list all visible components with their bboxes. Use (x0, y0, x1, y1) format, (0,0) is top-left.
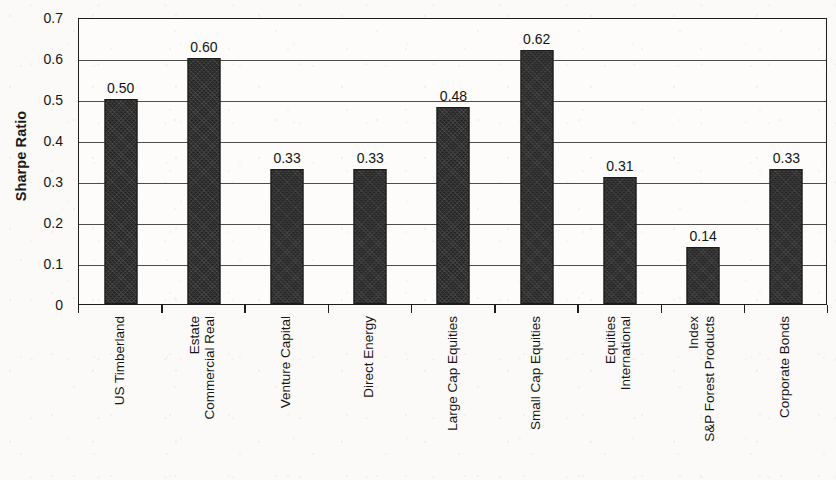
x-category-label: S&P Forest ProductsIndex (687, 316, 718, 480)
x-tick (744, 305, 745, 313)
x-category-label: Large Cap Equities (445, 316, 461, 480)
x-category-label-line: Direct Energy (362, 316, 378, 398)
bar-value-label: 0.48 (440, 89, 467, 103)
sharpe-ratio-bar-chart: Sharpe Ratio 00.10.20.30.40.50.60.7 0.50… (0, 0, 836, 480)
bar-value-label: 0.62 (523, 32, 550, 46)
bar-value-label: 0.31 (606, 159, 633, 173)
x-category-label-line: Venture Capital (278, 316, 294, 408)
x-category-label-line: Corporate Bonds (778, 316, 794, 418)
bar-group[interactable]: 0.33 (745, 19, 828, 304)
x-axis-category-labels: US TimberlandCommercial RealEstateVentur… (78, 316, 827, 480)
bar-group[interactable]: 0.62 (495, 19, 578, 304)
y-tick-label: 0.7 (0, 11, 72, 25)
x-category-label-line: Equities (603, 316, 619, 364)
bar-value-label: 0.33 (357, 151, 384, 165)
x-category-label: US Timberland (112, 316, 128, 480)
x-category-label-line: Commercial Real (203, 316, 219, 420)
x-category-label: InternationalEquities (603, 316, 634, 480)
x-category-label: Small Cap Equities (528, 316, 544, 480)
x-tick (827, 305, 828, 313)
bar[interactable] (520, 50, 553, 304)
x-tick (78, 305, 79, 313)
bar[interactable] (603, 177, 636, 304)
x-category-label: Corporate Bonds (778, 316, 794, 480)
x-tick (661, 305, 662, 313)
x-axis-ticks (78, 305, 827, 313)
x-category-label-line: Small Cap Equities (528, 316, 544, 430)
bar[interactable] (437, 107, 470, 304)
x-tick (577, 305, 578, 313)
x-category-label-line: International (619, 316, 635, 390)
x-tick (328, 305, 329, 313)
y-tick-label: 0 (0, 298, 72, 312)
bar-value-label: 0.60 (190, 40, 217, 54)
bar[interactable] (187, 58, 220, 304)
y-tick-label: 0.3 (0, 175, 72, 189)
bar[interactable] (354, 169, 387, 304)
bar[interactable] (104, 99, 137, 304)
bars-layer: 0.500.600.330.330.480.620.310.140.33 (79, 19, 826, 304)
bar-value-label: 0.14 (690, 229, 717, 243)
x-tick (494, 305, 495, 313)
x-category-label-line: US Timberland (112, 316, 128, 405)
x-category-label-line: Large Cap Equities (445, 316, 461, 431)
x-category-label: Venture Capital (278, 316, 294, 480)
bar-value-label: 0.33 (773, 151, 800, 165)
bar-group[interactable]: 0.60 (162, 19, 245, 304)
y-tick-label: 0.6 (0, 52, 72, 66)
x-category-label: Commercial RealEstate (187, 316, 218, 480)
y-tick-label: 0.2 (0, 216, 72, 230)
x-tick (411, 305, 412, 313)
bar-value-label: 0.33 (273, 151, 300, 165)
x-tick (161, 305, 162, 313)
bar-value-label: 0.50 (107, 81, 134, 95)
bar-group[interactable]: 0.48 (412, 19, 495, 304)
x-tick (244, 305, 245, 313)
y-axis-tick-labels: 00.10.20.30.40.50.60.7 (0, 0, 72, 480)
x-category-label: Direct Energy (362, 316, 378, 480)
bar[interactable] (770, 169, 803, 304)
bar[interactable] (687, 247, 720, 304)
bar-group[interactable]: 0.33 (245, 19, 328, 304)
x-category-label-line: S&P Forest Products (702, 316, 718, 442)
bar[interactable] (271, 169, 304, 304)
bar-group[interactable]: 0.50 (79, 19, 162, 304)
y-tick-label: 0.4 (0, 134, 72, 148)
plot-area: 0.500.600.330.330.480.620.310.140.33 (78, 18, 827, 305)
bar-group[interactable]: 0.31 (578, 19, 661, 304)
y-tick-label: 0.1 (0, 257, 72, 271)
x-category-label-line: Estate (187, 316, 203, 354)
x-category-label-line: Index (687, 316, 703, 349)
bar-group[interactable]: 0.14 (662, 19, 745, 304)
bar-group[interactable]: 0.33 (329, 19, 412, 304)
y-tick-label: 0.5 (0, 93, 72, 107)
